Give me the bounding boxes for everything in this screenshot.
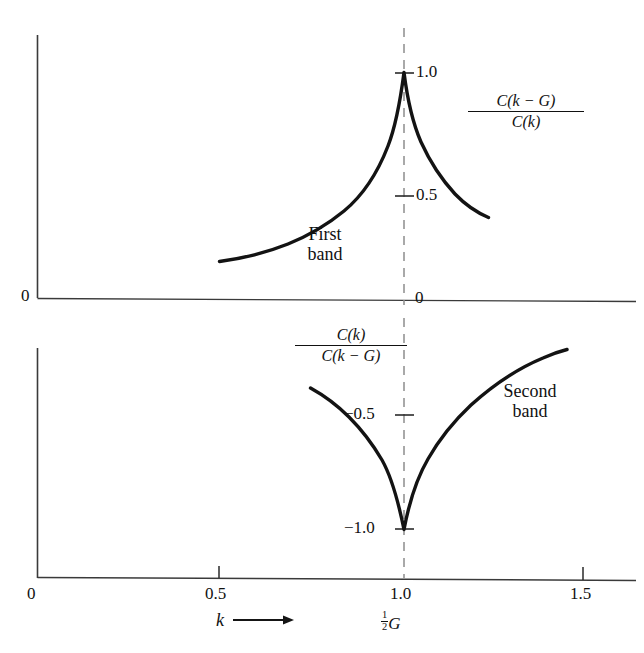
second-band-ratio-denominator: C(k − G)	[295, 345, 407, 365]
second-band-ratio-numerator: C(k)	[295, 326, 407, 345]
top-panel-zero-right-label: 0	[415, 288, 424, 307]
first-band-ratio-denominator: C(k)	[468, 111, 584, 131]
bottom-panel-x-axis	[38, 578, 637, 581]
y-tick-label-1.0: 1.0	[416, 62, 437, 81]
x-tick-label-0.5: 0.5	[205, 584, 226, 603]
first-band-annotation: First band	[290, 224, 360, 264]
second-band-label-line2: band	[513, 401, 548, 421]
x-axis-variable: k	[216, 610, 224, 630]
y-tick-label-neg-1.0: −1.0	[344, 518, 375, 537]
x-tick-label-1.5: 1.5	[570, 584, 591, 603]
k-direction-arrow	[233, 616, 294, 625]
first-band-ratio-numerator: C(k − G)	[468, 92, 584, 111]
figure-root: 0 0 1.0 0.5 C(k − G) C(k) First band C(k…	[0, 0, 644, 653]
x-axis-variable-label: k	[216, 610, 224, 630]
top-panel-origin-label: 0	[21, 286, 30, 305]
y-tick-label-0.5: 0.5	[416, 185, 437, 204]
reciprocal-lattice-vector-symbol: G	[388, 614, 400, 633]
first-band-label-line2: band	[308, 244, 343, 264]
second-band-ratio-label: C(k) C(k − G)	[295, 326, 407, 366]
zone-boundary-label: 1 2 G	[381, 610, 401, 633]
second-band-annotation: Second band	[483, 381, 577, 421]
first-band-label-line1: First	[308, 224, 341, 244]
second-band-curve	[311, 350, 568, 530]
y-tick-label-neg-0.5: −0.5	[344, 404, 375, 423]
first-band-ratio-label: C(k − G) C(k)	[468, 92, 584, 132]
top-panel-x-axis	[38, 299, 637, 302]
x-tick-label-0: 0	[27, 584, 36, 603]
second-band-label-line1: Second	[504, 381, 557, 401]
x-tick-label-1.0: 1.0	[390, 584, 411, 603]
